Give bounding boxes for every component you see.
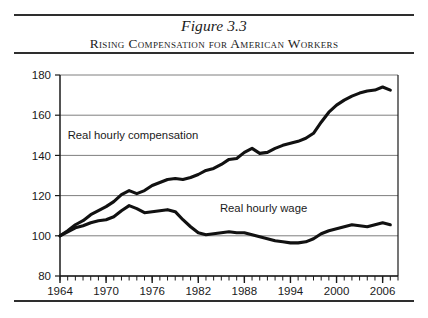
figure-subtitle: Rising Compensation for American Workers (0, 36, 428, 52)
y-tick-label-160: 160 (32, 109, 51, 121)
rule-under-title (14, 52, 414, 54)
x-tick-label-2000: 2000 (324, 285, 350, 297)
x-tick-labels: 19641970197619821988199420002006 (47, 285, 395, 297)
data-series (60, 87, 390, 243)
series-annotation-1: Real hourly wage (220, 202, 307, 214)
y-tick-label-80: 80 (38, 270, 51, 282)
rule-top (14, 14, 414, 16)
x-tick-label-1994: 1994 (278, 285, 304, 297)
series-annotation-0: Real hourly compensation (68, 129, 199, 141)
x-tick-label-1982: 1982 (185, 285, 211, 297)
rule-bottom (14, 300, 414, 302)
series-annotations: Real hourly compensationReal hourly wage (68, 129, 308, 213)
y-tick-label-180: 180 (32, 69, 51, 81)
x-tick-label-1976: 1976 (139, 285, 165, 297)
chart-plot-area: 80100120140160180 1964197019761982198819… (0, 60, 428, 300)
x-tick-label-1970: 1970 (93, 285, 119, 297)
y-axis (55, 75, 60, 276)
x-tick-label-2006: 2006 (370, 285, 396, 297)
figure-page: Figure 3.3 Rising Compensation for Ameri… (0, 0, 428, 318)
line-chart-svg: 80100120140160180 1964197019761982198819… (0, 60, 428, 300)
x-tick-label-1964: 1964 (47, 285, 73, 297)
x-axis (60, 75, 398, 283)
y-tick-label-120: 120 (32, 190, 51, 202)
y-tick-label-140: 140 (32, 150, 51, 162)
gridlines (60, 75, 398, 276)
x-tick-label-1988: 1988 (232, 285, 258, 297)
y-tick-label-100: 100 (32, 230, 51, 242)
figure-title: Figure 3.3 (0, 17, 428, 35)
y-tick-labels: 80100120140160180 (32, 69, 51, 282)
